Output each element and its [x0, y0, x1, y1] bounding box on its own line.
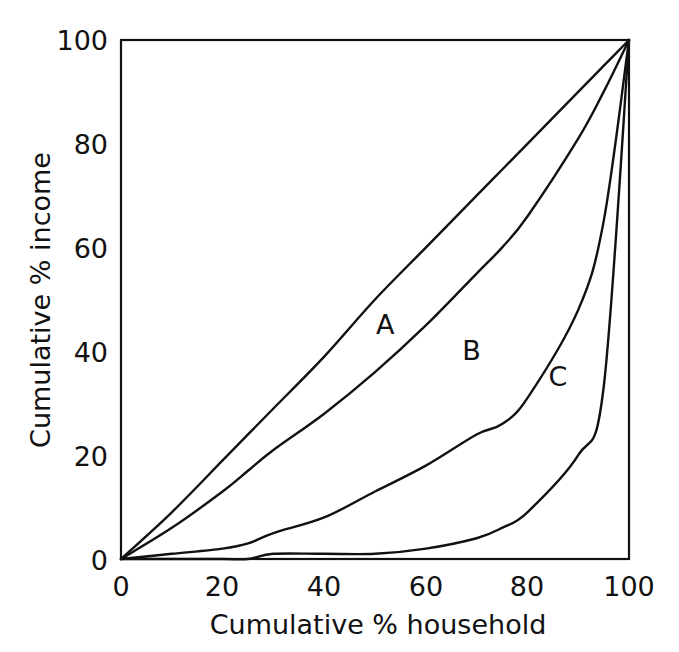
- y-tick-label-100: 100: [56, 25, 108, 56]
- curve-label-b: B: [462, 335, 481, 366]
- y-tick-label-0: 0: [91, 545, 108, 576]
- y-tick-label-20: 20: [74, 441, 108, 472]
- x-tick-label-100: 100: [603, 571, 655, 602]
- y-axis-title: Cumulative % income: [25, 152, 56, 448]
- x-axis-title: Cumulative % household: [210, 609, 547, 640]
- lorenz-curve-a: [121, 40, 629, 559]
- lorenz-curve-figure: A B C 100 80 60 40 20 0 0 20 40 60 80 10…: [0, 0, 679, 652]
- y-tick-label-80: 80: [74, 129, 108, 160]
- chart-canvas: A B C 100 80 60 40 20 0 0 20 40 60 80 10…: [0, 0, 679, 652]
- x-tick-label-80: 80: [510, 571, 544, 602]
- curve-label-a: A: [376, 309, 395, 340]
- x-tick-label-20: 20: [205, 571, 239, 602]
- x-tick-label-60: 60: [409, 571, 443, 602]
- x-tick-label-40: 40: [307, 571, 341, 602]
- y-tick-label-40: 40: [74, 337, 108, 368]
- y-tick-label-60: 60: [74, 233, 108, 264]
- curve-label-c: C: [548, 361, 567, 392]
- x-tick-label-0: 0: [112, 571, 129, 602]
